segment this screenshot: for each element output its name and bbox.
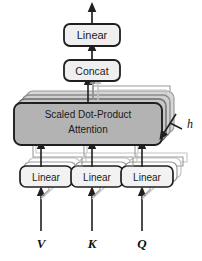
linear-q-label: Linear [133, 172, 161, 183]
attention-label-line1: Scaled Dot-Product [45, 109, 132, 120]
diagram-canvas: Linear Linear Linear [0, 0, 202, 261]
concat-label: Concat [75, 65, 108, 77]
input-stems-group [41, 191, 142, 231]
linear-v-label: Linear [32, 172, 60, 183]
input-label-v: V [37, 236, 47, 251]
input-label-q: Q [137, 236, 147, 251]
input-label-k: K [87, 236, 98, 251]
heads-label: h [187, 117, 193, 131]
linear-k-label: Linear [83, 172, 111, 183]
top-linear-label: Linear [77, 29, 108, 41]
attention-label-line2: Attention [68, 124, 107, 135]
multi-head-attention-diagram: Linear Linear Linear [0, 0, 202, 261]
